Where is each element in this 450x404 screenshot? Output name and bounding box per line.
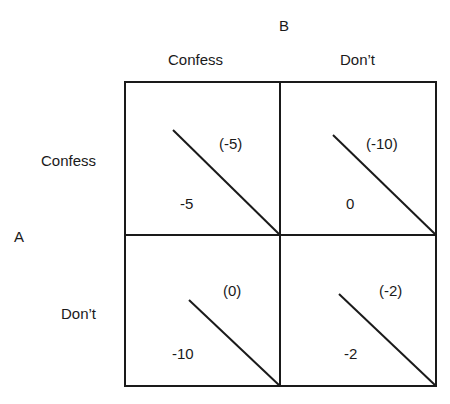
column-player-label: B (279, 18, 289, 33)
payoff-a-cd: 0 (346, 196, 354, 211)
row-player-label: A (14, 229, 24, 244)
cell-diagonal-dc (189, 300, 280, 386)
payoff-a-cc: -5 (180, 196, 193, 211)
column-strategy-confess: Confess (168, 52, 223, 67)
cell-diagonal-dd (339, 294, 436, 386)
payoff-matrix-grid (0, 0, 450, 404)
column-strategy-dont: Don’t (340, 52, 375, 67)
row-strategy-dont: Don’t (61, 306, 96, 321)
payoff-b-cd: (-10) (366, 136, 398, 151)
payoff-b-dc: (0) (223, 283, 241, 298)
payoff-a-dc: -10 (172, 346, 194, 361)
payoff-b-dd: (-2) (379, 283, 402, 298)
payoff-a-dd: -2 (344, 346, 357, 361)
row-strategy-confess: Confess (41, 153, 96, 168)
payoff-b-cc: (-5) (219, 136, 242, 151)
